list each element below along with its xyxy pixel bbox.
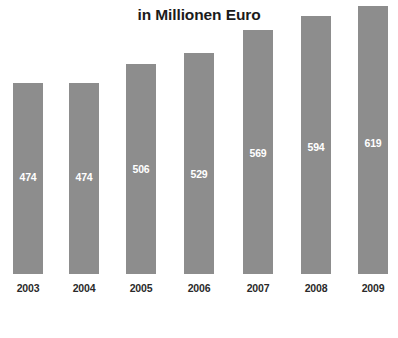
bar-value-label: 474 (69, 171, 99, 183)
bar: 474 (13, 83, 43, 274)
bar: 474 (69, 83, 99, 274)
bar: 619 (358, 6, 388, 274)
bar-value-label: 619 (358, 137, 388, 149)
bar: 506 (126, 64, 156, 274)
x-axis-tick-label: 2003 (9, 282, 47, 294)
x-axis-tick-label: 2009 (354, 282, 392, 294)
bar-chart: in Millionen Euro 4742003474200450620055… (0, 0, 398, 338)
bar: 569 (243, 30, 273, 274)
bar-value-label: 529 (184, 168, 214, 180)
bar-value-label: 569 (243, 147, 273, 159)
bar-value-label: 474 (13, 171, 43, 183)
bar: 529 (184, 53, 214, 274)
x-axis-tick-label: 2007 (239, 282, 277, 294)
bar-value-label: 506 (126, 163, 156, 175)
cropped-caption-text (14, 331, 16, 335)
plot-area: 4742003474200450620055292006569200759420… (0, 0, 398, 306)
x-axis-tick-label: 2006 (180, 282, 218, 294)
x-axis-tick-label: 2005 (122, 282, 160, 294)
x-axis-tick-label: 2008 (297, 282, 335, 294)
cropped-caption-strip (0, 331, 398, 338)
bar: 594 (301, 16, 331, 274)
x-axis-tick-label: 2004 (65, 282, 103, 294)
bar-value-label: 594 (301, 141, 331, 153)
